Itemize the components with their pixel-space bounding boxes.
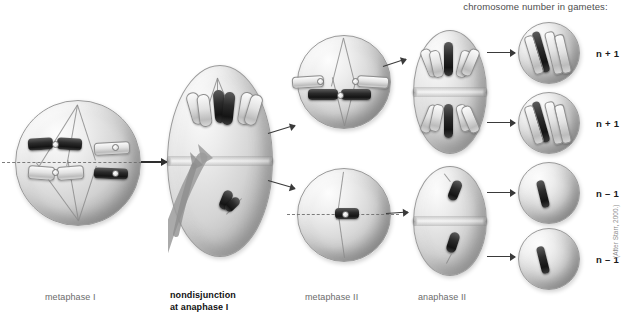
arrow-to-gamete-3: [487, 192, 515, 193]
centromere: [337, 92, 344, 99]
chromosome-dark: [444, 42, 453, 76]
caption-nondisjunction-line2: at anaphase I: [170, 302, 228, 312]
centromere: [352, 78, 359, 85]
chromosome-dark: [57, 137, 83, 151]
centromere: [317, 78, 324, 85]
metaphase-1-cell: [15, 100, 141, 226]
arrow-to-metaphase2-upper: [268, 125, 295, 134]
centromere: [112, 170, 119, 177]
anaphase-2-lower-cell: [413, 166, 487, 276]
arrow-metaphase1-to-nondisjunction: [141, 161, 167, 163]
source-credit: (After Starr, 2000.): [612, 205, 619, 258]
caption-nondisjunction: nondisjunction at anaphase I: [170, 290, 280, 313]
arrow-to-gamete-2: [487, 122, 515, 123]
arrow-to-gamete-4: [487, 256, 515, 257]
caption-metaphase-2: metaphase II: [305, 292, 358, 302]
metaphase-1-plate: [2, 162, 152, 163]
centromere: [52, 141, 59, 148]
chromosome-light: [357, 75, 390, 89]
arrow-to-metaphase2-lower: [268, 180, 295, 189]
chromosome-light: [57, 165, 85, 181]
gamete-label-1: n + 1: [596, 48, 619, 59]
centromere: [112, 144, 119, 151]
arrow-to-gamete-1: [487, 52, 515, 53]
caption-nondisjunction-line1: nondisjunction: [170, 290, 236, 300]
gamete-label-2: n + 1: [596, 118, 619, 129]
caption-anaphase-2: anaphase II: [418, 292, 466, 302]
chromosome-dark: [308, 89, 338, 100]
gamete-cell-3: [518, 162, 580, 224]
gamete-label-3: n – 1: [596, 188, 619, 199]
gametes-header: chromosome number in gametes:: [440, 1, 631, 12]
caption-metaphase-1: metaphase I: [45, 292, 96, 302]
gamete-cell-4: [518, 228, 580, 290]
centromere: [342, 211, 349, 218]
centromere: [52, 169, 59, 176]
chromosome-dark: [28, 137, 54, 151]
chromosome-dark: [94, 167, 128, 179]
chromosome-dark: [341, 89, 371, 100]
gamete-cell-2: [518, 92, 580, 154]
gamete-cell-1: [518, 22, 580, 84]
chromosome-dark: [444, 104, 453, 138]
